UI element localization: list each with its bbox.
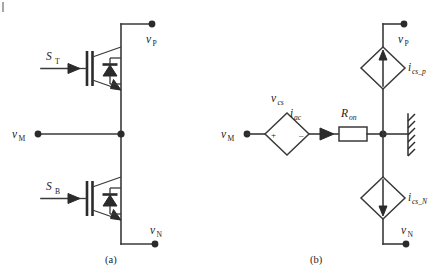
label-ron-sub: on [349,113,357,122]
label-vp-b-sub: P [405,39,409,48]
ground-hatch-4 [408,135,415,142]
terminal-label-vp-a: v P [146,33,157,48]
label-sb-sub: B [55,187,60,196]
label-ics-p-sub: cs_p [412,67,426,76]
terminal-dot-vp-a [149,21,156,28]
label-ics-n-base: i [408,191,411,203]
ground-hatch-1 [408,114,415,121]
igbt-bottom-collector-slant [93,177,122,187]
terminal-dot-vn-a [152,241,159,248]
label-iac-base: i [290,107,293,119]
label-vn-a-base: v [150,224,156,236]
terminal-label-vm-a: v M [12,128,26,143]
label-vn-b-sub: N [408,230,414,239]
label-vp-a-sub: P [153,39,157,48]
label-vm-a-sub: M [19,134,26,143]
gate-signal-sb: S B [41,180,80,204]
ron-body [339,127,367,141]
controlled-voltage-source-vcs: + – v cs [265,92,309,155]
panel-b-caption: (b) [310,254,323,266]
igbt-bottom-emitter-arrowhead [111,210,122,221]
diode-bottom-triangle [103,195,117,206]
controlled-current-source-ics-n: i cs_N [361,177,428,219]
ground-hatch-6 [408,149,415,156]
label-vp-a-base: v [146,33,152,45]
label-vm-a-base: v [12,128,18,140]
label-ics-n-sub: cs_N [412,197,428,206]
label-vm-b-sub: M [228,134,235,143]
gate-signal-st-arrowhead [68,64,80,74]
vcs-minus-sign: – [298,130,304,140]
circuit-diagram-svg: S T S B v [0,0,437,279]
ground-hatch-2 [408,121,415,128]
label-st-base: S [46,50,52,62]
junction-dot-midpoint-a [117,130,124,137]
terminal-dot-vn-b [403,241,410,248]
label-sb-base: S [46,180,52,192]
diode-top-triangle [103,65,117,76]
label-ics-p-base: i [408,61,411,73]
label-vm-b-base: v [221,128,227,140]
ground-hatch-5 [408,142,415,149]
circuit-figure: S T S B v [0,0,437,279]
iac-arrowhead [320,128,334,140]
gate-signal-st: S T [41,50,80,74]
vcs-plus-sign: + [271,130,276,140]
igbt-top-emitter-arrowhead [111,80,122,91]
diode-top [103,58,122,84]
label-st-sub: T [55,57,60,66]
gate-signal-sb-arrowhead [68,194,80,204]
terminal-label-vm-b: v M [221,128,235,143]
label-ron-base: R [340,107,348,119]
resistor-ron: R on [339,107,367,141]
ground-hatch-3 [408,128,415,135]
terminal-label-vp-b: v P [398,33,409,48]
terminal-dot-vp-b [401,21,408,28]
label-vcs-sub: cs [278,98,284,107]
panel-a-caption: (a) [105,254,117,266]
label-vn-b-base: v [401,224,407,236]
panel-b: + – v cs i ac R on [221,21,428,266]
label-vn-a-sub: N [157,230,163,239]
controlled-current-source-ics-p: i cs_p [361,47,426,89]
igbt-top-collector-slant [93,47,122,57]
panel-a: S T S B v [12,21,163,266]
label-vcs-base: v [271,92,277,104]
label-vp-b-base: v [398,33,404,45]
terminal-label-vn-b: v N [401,224,414,239]
label-iac-sub: ac [294,113,302,122]
chassis-ground-icon [408,114,415,156]
diode-bottom [103,188,122,214]
terminal-dot-vm-a [35,131,42,138]
terminal-label-vn-a: v N [150,224,163,239]
